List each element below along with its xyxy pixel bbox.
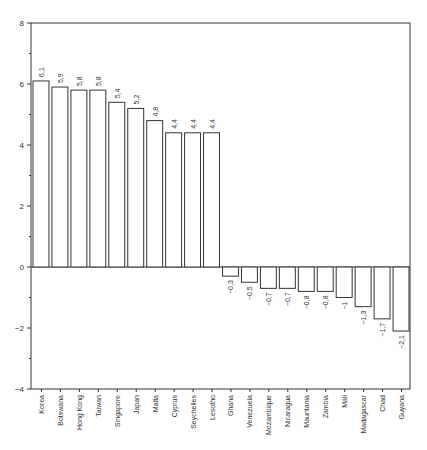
y-tick-label: 8: [20, 19, 25, 28]
category-label: Venezuela: [246, 395, 253, 428]
category-label: Lesotho: [209, 395, 216, 420]
value-label: 5,8: [95, 76, 102, 86]
bar: [204, 133, 220, 267]
category-label: Malta: [152, 395, 159, 412]
value-label: −0,7: [284, 292, 291, 306]
bar: [90, 90, 106, 267]
category-label: Zambia: [322, 395, 329, 418]
value-label: −0,3: [227, 280, 234, 294]
value-label: −2,1: [398, 335, 405, 349]
bar: [241, 267, 257, 282]
value-label: −1: [341, 301, 348, 309]
value-label: 6,1: [38, 67, 45, 77]
value-label: −0,5: [246, 286, 253, 300]
value-label: 4,4: [190, 119, 197, 129]
bar: [166, 133, 182, 267]
category-label: Japan: [133, 395, 141, 414]
bar: [33, 81, 49, 267]
category-label: Chad: [379, 395, 386, 412]
category-label: Singapore: [114, 395, 122, 427]
y-axis: −4−202468: [15, 19, 31, 394]
category-label: Taiwan: [95, 395, 102, 417]
category-label: Korea: [38, 395, 45, 414]
bar: [374, 267, 390, 319]
y-tick-label: 4: [20, 141, 25, 150]
bars: [33, 81, 409, 331]
bar: [185, 133, 201, 267]
bar: [147, 121, 163, 267]
value-label: −0,8: [322, 295, 329, 309]
x-axis-labels: KoreaBotswanaHong KongTaiwanSingaporeJap…: [38, 389, 406, 435]
value-label: 5,2: [133, 95, 140, 105]
bar: [317, 267, 333, 291]
bar: [260, 267, 276, 288]
value-label: 4,4: [171, 119, 178, 129]
bar: [128, 108, 144, 267]
category-label: Mauritania: [303, 395, 310, 428]
value-label: 4,8: [152, 107, 159, 117]
bar-chart: −4−202468 6,15,95,85,85,45,24,84,44,44,4…: [0, 0, 427, 450]
category-label: Hong Kong: [76, 395, 84, 430]
y-tick-label: 2: [20, 202, 25, 211]
y-tick-label: 0: [20, 263, 25, 272]
bar: [393, 267, 409, 331]
value-label: 5,9: [57, 73, 64, 83]
category-label: Nicaragua: [284, 395, 292, 427]
category-label: Mali: [341, 395, 348, 408]
bar: [298, 267, 314, 291]
bar: [71, 90, 87, 267]
category-label: Guyana: [398, 395, 406, 420]
category-label: Cyprus: [171, 395, 179, 418]
value-label: −1,7: [379, 323, 386, 337]
category-label: Seychelles: [190, 395, 198, 429]
bar: [52, 87, 68, 267]
y-tick-label: 6: [20, 80, 25, 89]
value-label: −0,7: [265, 292, 272, 306]
plot-frame: [31, 23, 410, 389]
value-label: −0,8: [303, 295, 310, 309]
category-label: Mozambique: [265, 395, 273, 435]
category-label: Madagascar: [360, 394, 368, 433]
category-label: Ghana: [227, 395, 234, 416]
value-label: 5,8: [76, 76, 83, 86]
bar: [355, 267, 371, 307]
value-label: −1,3: [360, 311, 367, 325]
value-label: 5,4: [114, 88, 121, 98]
bar: [109, 102, 125, 267]
plot-border: [31, 23, 410, 389]
category-label: Botswana: [57, 395, 64, 426]
bar: [279, 267, 295, 288]
bar: [223, 267, 239, 276]
y-tick-label: −4: [15, 385, 25, 394]
bar: [336, 267, 352, 298]
y-tick-label: −2: [15, 324, 25, 333]
value-label: 4,4: [209, 119, 216, 129]
